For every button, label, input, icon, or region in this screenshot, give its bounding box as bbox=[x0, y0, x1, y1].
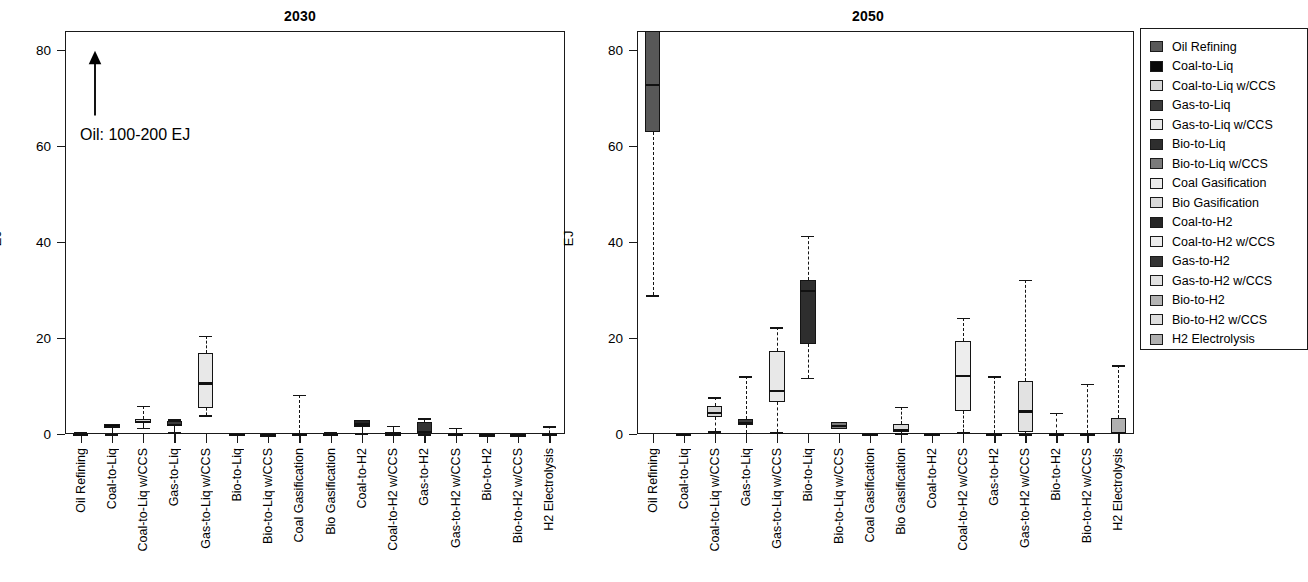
legend-label: Bio-to-Liq w/CCS bbox=[1172, 157, 1268, 171]
legend-item[interactable]: Gas-to-H2 w/CCS bbox=[1150, 271, 1300, 291]
legend-label: Oil Refining bbox=[1172, 40, 1237, 54]
y-tick-mark bbox=[57, 50, 65, 51]
legend-item[interactable]: Oil Refining bbox=[1150, 37, 1300, 57]
legend-label: Bio-to-Liq bbox=[1172, 137, 1226, 151]
y-axis-label-2050: EJ bbox=[561, 230, 576, 246]
legend-swatch-icon bbox=[1150, 275, 1163, 286]
panel-title-2030: 2030 bbox=[0, 8, 600, 24]
boxplot-median bbox=[260, 434, 276, 436]
legend-label: Gas-to-H2 w/CCS bbox=[1172, 274, 1272, 288]
x-tick-label: Bio-to-H2 bbox=[480, 448, 494, 501]
whisker-cap-lower bbox=[418, 434, 431, 436]
whisker-lower bbox=[963, 411, 964, 432]
whisker-upper bbox=[1056, 413, 1057, 433]
legend-item[interactable]: Coal Gasification bbox=[1150, 174, 1300, 194]
whisker-cap-upper bbox=[1081, 384, 1094, 386]
legend-swatch-icon bbox=[1150, 236, 1163, 247]
x-tick-label: Bio-to-Liq bbox=[230, 448, 244, 502]
whisker-lower bbox=[808, 344, 809, 378]
y-tick-label: 60 bbox=[589, 139, 623, 154]
boxplot-median bbox=[1111, 432, 1127, 434]
panel-title-2050: 2050 bbox=[600, 8, 1136, 24]
y-tick-label: 40 bbox=[589, 235, 623, 250]
whisker-lower bbox=[715, 417, 716, 431]
whisker-lower bbox=[653, 132, 654, 296]
whisker-cap-lower bbox=[1019, 434, 1032, 436]
legend-item[interactable]: Bio-to-H2 w/CCS bbox=[1150, 310, 1300, 330]
whisker-cap-lower bbox=[646, 295, 659, 297]
whisker-upper bbox=[746, 376, 747, 418]
boxplot-median bbox=[323, 434, 339, 436]
whisker-upper bbox=[963, 318, 964, 342]
x-tick-mark bbox=[206, 434, 207, 443]
boxplot-median bbox=[986, 434, 1002, 436]
boxplot-median bbox=[198, 382, 214, 384]
legend-item[interactable]: H2 Electrolysis bbox=[1150, 330, 1300, 350]
boxplot-median bbox=[104, 426, 120, 428]
legend-item[interactable]: Bio-to-Liq bbox=[1150, 135, 1300, 155]
legend-item[interactable]: Gas-to-Liq bbox=[1150, 96, 1300, 116]
x-tick-label: Coal-to-Liq w/CCS bbox=[708, 448, 722, 552]
legend-swatch-icon bbox=[1150, 80, 1163, 91]
x-tick-mark bbox=[362, 434, 363, 443]
x-tick-label: Gas-to-Liq bbox=[167, 448, 181, 506]
y-tick-mark bbox=[629, 434, 637, 435]
legend-swatch-icon bbox=[1150, 197, 1163, 208]
whisker-lower bbox=[206, 408, 207, 416]
x-tick-label: Coal Gasification bbox=[863, 448, 877, 543]
whisker-cap-upper bbox=[957, 318, 970, 320]
y-tick-mark bbox=[57, 146, 65, 147]
x-tick-label: Bio-to-H2 w/CCS bbox=[511, 448, 525, 543]
legend-item[interactable]: Coal-to-H2 w/CCS bbox=[1150, 232, 1300, 252]
x-tick-mark bbox=[963, 434, 964, 443]
x-tick-label: Bio-to-Liq bbox=[801, 448, 815, 502]
legend-item[interactable]: Coal-to-Liq bbox=[1150, 57, 1300, 77]
whisker-cap-upper bbox=[387, 426, 400, 428]
x-tick-mark bbox=[746, 434, 747, 443]
panel-2050: 2050 EJ 020406080 Oil RefiningCoal-to-Li… bbox=[600, 0, 1136, 582]
legend-item[interactable]: Coal-to-Liq w/CCS bbox=[1150, 76, 1300, 96]
boxplot-box bbox=[1018, 381, 1034, 431]
legend-item[interactable]: Bio-to-Liq w/CCS bbox=[1150, 154, 1300, 174]
y-tick-mark bbox=[629, 242, 637, 243]
legend-label: Coal-to-H2 bbox=[1172, 215, 1232, 229]
whisker-cap-lower bbox=[708, 431, 721, 433]
x-tick-label: Coal-to-Liq bbox=[677, 448, 691, 509]
legend-item[interactable]: Coal-to-H2 bbox=[1150, 213, 1300, 233]
oil-annotation-text: Oil: 100-200 EJ bbox=[80, 126, 190, 144]
legend-item[interactable]: Bio-to-H2 bbox=[1150, 291, 1300, 311]
legend-item[interactable]: Gas-to-Liq w/CCS bbox=[1150, 115, 1300, 135]
legend-item[interactable]: Gas-to-H2 bbox=[1150, 252, 1300, 272]
x-tick-mark bbox=[1118, 434, 1119, 443]
y-tick-label: 40 bbox=[17, 235, 51, 250]
x-tick-label: Coal-to-H2 bbox=[355, 448, 369, 508]
boxplot-median bbox=[738, 422, 754, 424]
legend-swatch-icon bbox=[1150, 139, 1163, 150]
x-tick-mark bbox=[174, 434, 175, 443]
boxplot-median bbox=[73, 434, 89, 436]
whisker-cap-upper bbox=[895, 407, 908, 409]
y-axis-label-2030: EJ bbox=[0, 230, 4, 246]
x-tick-mark bbox=[143, 434, 144, 443]
x-tick-mark bbox=[653, 434, 654, 443]
whisker-cap-upper bbox=[199, 336, 212, 338]
boxplot-median bbox=[924, 434, 940, 436]
legend-item[interactable]: Bio Gasification bbox=[1150, 193, 1300, 213]
whisker-cap-upper bbox=[1019, 280, 1032, 282]
boxplot-median bbox=[229, 434, 245, 436]
legend-label: H2 Electrolysis bbox=[1172, 332, 1255, 346]
y-tick-label: 20 bbox=[589, 331, 623, 346]
legend-swatch-icon bbox=[1150, 41, 1163, 52]
legend-swatch-icon bbox=[1150, 217, 1163, 228]
whisker-cap-upper bbox=[770, 327, 783, 329]
legend-label: Gas-to-Liq w/CCS bbox=[1172, 118, 1273, 132]
legend-swatch-icon bbox=[1150, 100, 1163, 111]
whisker-upper bbox=[994, 376, 995, 432]
legend-swatch-icon bbox=[1150, 314, 1163, 325]
whisker-cap-lower bbox=[739, 433, 752, 435]
whisker-cap-upper bbox=[293, 395, 306, 397]
legend-label: Coal-to-Liq w/CCS bbox=[1172, 79, 1276, 93]
whisker-cap-upper bbox=[1112, 365, 1125, 367]
whisker-upper bbox=[206, 336, 207, 354]
whisker-upper bbox=[1025, 280, 1026, 382]
